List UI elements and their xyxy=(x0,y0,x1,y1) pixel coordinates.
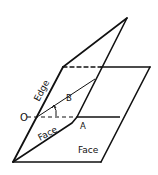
diagram-canvas: Edge B O A Face Face xyxy=(0,0,158,175)
inclined-top-edge xyxy=(63,18,127,67)
dihedral-angle-diagram: Edge B O A Face Face xyxy=(0,0,158,175)
label-point-o: O xyxy=(20,112,28,123)
plane-right-edge xyxy=(101,67,150,162)
label-face-upper: Face xyxy=(36,124,59,143)
label-face-lower: Face xyxy=(78,145,99,155)
label-point-b: B xyxy=(66,93,72,103)
label-point-a: A xyxy=(80,121,86,131)
inclined-plane xyxy=(13,18,127,162)
inclined-right-edge xyxy=(13,18,127,162)
label-edge: Edge xyxy=(32,78,52,103)
